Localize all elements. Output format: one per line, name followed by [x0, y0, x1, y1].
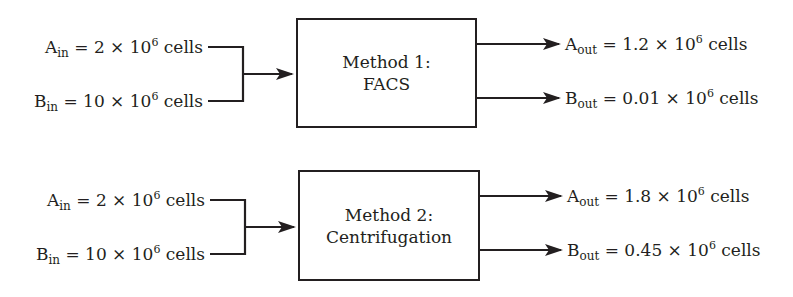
output-a-label-2: Aout = 1.8 × 106 cells — [567, 186, 749, 208]
input-bracket-1 — [208, 47, 292, 101]
method-1-title: Method 1: — [342, 51, 430, 73]
output-a-label-1: Aout = 1.2 × 106 cells — [565, 34, 747, 56]
output-arrows-2 — [479, 196, 561, 250]
method-2-name: Centrifugation — [326, 226, 452, 248]
method-1-name: FACS — [342, 73, 430, 95]
input-b-label-2: Bin = 10 × 106 cells — [36, 244, 205, 266]
method-1-box: Method 1: FACS — [296, 18, 477, 128]
input-a-label-2: Ain = 2 × 106 cells — [47, 190, 205, 212]
output-b-label-2: Bout = 0.45 × 106 cells — [567, 240, 760, 262]
input-bracket-2 — [210, 200, 294, 254]
input-a-label-1: Ain = 2 × 106 cells — [45, 37, 203, 59]
input-b-label-1: Bin = 10 × 106 cells — [34, 91, 203, 113]
output-b-label-1: Bout = 0.01 × 106 cells — [565, 88, 758, 110]
output-arrows-1 — [477, 44, 559, 98]
method-2-title: Method 2: — [326, 204, 452, 226]
method-2-box: Method 2: Centrifugation — [298, 170, 480, 281]
